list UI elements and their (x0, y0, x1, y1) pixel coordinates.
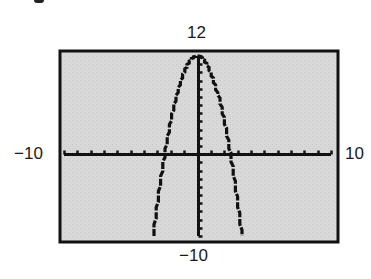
calculator-graph-screen (0, 0, 371, 279)
